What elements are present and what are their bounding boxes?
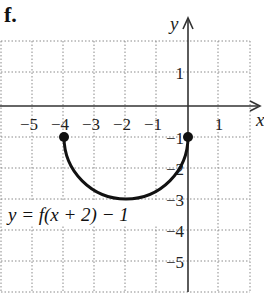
x-tick-label: 1	[215, 115, 224, 134]
x-tick-label: −3	[82, 115, 100, 134]
x-tick-label: −1	[144, 115, 162, 134]
y-tick-label: −3	[166, 191, 184, 210]
y-axis-label: y	[168, 13, 179, 34]
x-tick-label: −5	[20, 115, 38, 134]
x-tick-label: −4	[51, 115, 70, 134]
y-tick-labels: 1 −1 −2 −3 −4 −5	[166, 64, 185, 272]
endpoint-dot	[59, 132, 69, 142]
y-tick-label: −4	[166, 222, 185, 241]
y-tick-label: −5	[166, 253, 184, 272]
grid	[1, 41, 250, 292]
y-tick-label: −1	[166, 129, 184, 148]
x-tick-labels: −5 −4 −3 −2 −1 1	[20, 115, 223, 134]
equation-label: y = f(x + 2) − 1	[6, 204, 129, 226]
x-tick-label: −2	[113, 115, 131, 134]
graph: y x −5 −4 −3 −2 −1 1 1 −1 −2 −3 −4 −5 y …	[0, 0, 264, 308]
endpoint-dot	[183, 132, 193, 142]
x-axis-label: x	[255, 109, 264, 130]
y-tick-label: 1	[176, 64, 185, 83]
axes	[0, 18, 260, 292]
